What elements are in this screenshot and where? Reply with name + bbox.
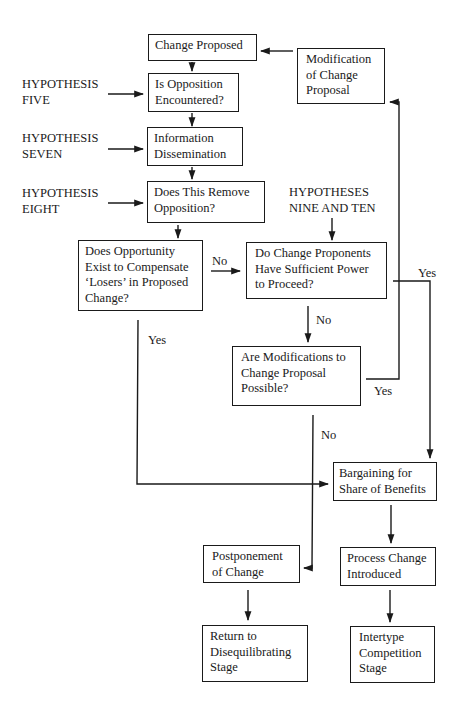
node-text: Proposal [306,83,378,99]
hypothesis-five-label: HYPOTHESIS FIVE [22,77,98,108]
edge-label-proponents-no: No [316,313,331,327]
node-text: Do Change Proponents [255,246,380,262]
node-modification-of-change-proposal: Modification of Change Proposal [297,48,385,104]
node-does-opportunity-exist: Does Opportunity Exist to Compensate ‘Lo… [78,240,203,311]
node-change-proposed: Change Proposed [148,34,257,61]
node-text: Dissemination [154,147,236,163]
node-postponement-of-change: Postponement of Change [203,545,300,583]
node-text: Are Modifications to [241,350,354,366]
edge-label-opportunity-no: No [212,254,227,268]
node-text: Does This Remove [154,185,258,201]
node-text: Information [154,131,236,147]
node-text: Intertype [359,630,428,646]
node-text: Stage [359,661,428,677]
label-text: SEVEN [22,147,98,163]
node-does-this-remove-opposition: Does This Remove Opposition? [147,181,265,223]
node-text: Exist to Compensate [85,260,196,276]
node-text: Modification [306,52,378,68]
node-text: Share of Benefits [339,482,430,498]
node-intertype-competition-stage: Intertype Competition Stage [350,626,435,683]
label-text: HYPOTHESES [289,185,376,201]
node-do-change-proponents-have-power: Do Change Proponents Have Sufficient Pow… [246,242,387,299]
label-text: EIGHT [22,202,98,218]
node-return-to-disequilibrating-stage: Return to Disequilibrating Stage [202,625,308,682]
node-text: Stage [210,660,301,676]
node-text: Change? [85,291,196,307]
node-text: of Change [306,68,378,84]
node-process-change-introduced: Process Change Introduced [340,547,436,586]
label-text: NINE AND TEN [289,201,376,217]
node-bargaining-for-share-of-benefits: Bargaining for Share of Benefits [333,462,437,501]
edge-label-modifications-yes: Yes [374,384,392,398]
node-text: Postponement [212,549,293,565]
node-text: Is Opposition [155,77,232,93]
node-text: Disequilibrating [210,645,301,661]
node-is-opposition-encountered: Is Opposition Encountered? [148,73,239,112]
node-text: ‘Losers’ in Proposed [85,275,196,291]
edge-label-modifications-no: No [321,428,336,442]
hypotheses-nine-and-ten-label: HYPOTHESES NINE AND TEN [289,185,376,216]
node-text: of Change [212,565,293,581]
node-text: Introduced [347,567,429,583]
node-text: Have Sufficient Power [255,262,380,278]
node-text: Competition [359,646,428,662]
node-information-dissemination: Information Dissemination [147,127,243,166]
node-text: Process Change [347,551,429,567]
hypothesis-seven-label: HYPOTHESIS SEVEN [22,131,98,162]
label-text: HYPOTHESIS [22,186,98,202]
node-text: Encountered? [155,93,232,109]
edge-label-proponents-yes: Yes [418,266,436,280]
node-are-modifications-possible: Are Modifications to Change Proposal Pos… [232,346,361,406]
node-text: to Proceed? [255,277,380,293]
label-text: FIVE [22,93,98,109]
node-text: Does Opportunity [85,244,196,260]
edge-label-opportunity-yes: Yes [148,333,166,347]
label-text: HYPOTHESIS [22,131,98,147]
hypothesis-eight-label: HYPOTHESIS EIGHT [22,186,98,217]
label-text: HYPOTHESIS [22,77,98,93]
node-text: Possible? [241,381,354,397]
node-text: Opposition? [154,201,258,217]
node-text: Change Proposed [155,38,250,54]
node-text: Return to [210,629,301,645]
node-text: Change Proposal [241,366,354,382]
node-text: Bargaining for [339,466,430,482]
